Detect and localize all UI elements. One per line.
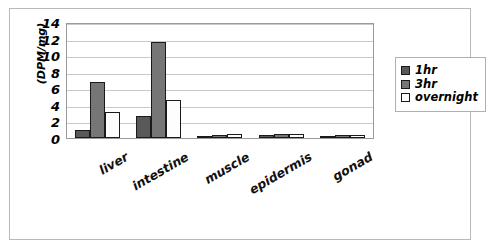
bar-epidermis-1hr[interactable] (259, 135, 274, 138)
bar-group-intestine (136, 24, 181, 138)
y-axis-tick-label: 12 (42, 33, 60, 46)
y-axis-tick-label: 4 (51, 99, 60, 112)
x-axis-label-epidermis: epidermis (246, 149, 314, 197)
plot-area (66, 23, 374, 139)
y-axis-tick-label: 8 (51, 66, 60, 79)
bar-muscle-3hr[interactable] (212, 135, 227, 138)
legend-label-3hr: 3hr (415, 79, 437, 91)
bar-group-liver (75, 24, 120, 138)
bar-series-container (67, 24, 373, 138)
legend-item-1hr[interactable]: 1hr (401, 65, 478, 77)
chart-legend: 1hr3hrovernight (395, 57, 486, 112)
bar-epidermis-overnight[interactable] (289, 134, 304, 138)
bar-muscle-overnight[interactable] (227, 134, 242, 138)
bar-liver-3hr[interactable] (90, 82, 105, 138)
legend-swatch-1hr (401, 66, 410, 75)
x-axis-category-labels: liverintestinemuscleepidermisgonad (66, 141, 374, 211)
bar-group-epidermis (259, 24, 304, 138)
bar-epidermis-3hr[interactable] (274, 134, 289, 138)
y-axis-tick-label: 10 (42, 50, 60, 63)
bar-group-muscle (197, 24, 242, 138)
x-axis-label-liver: liver (96, 149, 131, 178)
y-axis-tick-label: 14 (42, 17, 60, 30)
y-axis-tick-labels: 14121086420 (34, 23, 60, 139)
figure-frame: (DPM/mg) 14121086420 liverintestinemuscl… (9, 8, 471, 240)
x-axis-label-muscle: muscle (201, 149, 251, 187)
legend-label-1hr: 1hr (415, 65, 437, 77)
bar-intestine-3hr[interactable] (151, 42, 166, 138)
bar-gonad-3hr[interactable] (335, 135, 350, 138)
legend-item-3hr[interactable]: 3hr (401, 79, 478, 91)
bar-intestine-overnight[interactable] (166, 100, 181, 138)
bar-liver-overnight[interactable] (105, 112, 120, 139)
legend-swatch-overnight (401, 93, 410, 102)
bar-muscle-1hr[interactable] (197, 136, 212, 138)
y-axis-tick-label: 0 (51, 133, 60, 146)
bar-gonad-1hr[interactable] (320, 136, 335, 138)
bar-group-gonad (320, 24, 365, 138)
y-axis-tick-label: 6 (51, 83, 60, 96)
y-axis-tick-label: 2 (51, 116, 60, 129)
bar-gonad-overnight[interactable] (350, 135, 365, 138)
legend-swatch-3hr (401, 80, 410, 89)
x-axis-label-gonad: gonad (329, 149, 374, 184)
legend-label-overnight: overnight (415, 92, 478, 104)
x-axis-label-intestine: intestine (129, 149, 191, 193)
legend-item-overnight[interactable]: overnight (401, 92, 478, 104)
bar-liver-1hr[interactable] (75, 130, 90, 138)
bar-intestine-1hr[interactable] (136, 116, 151, 138)
